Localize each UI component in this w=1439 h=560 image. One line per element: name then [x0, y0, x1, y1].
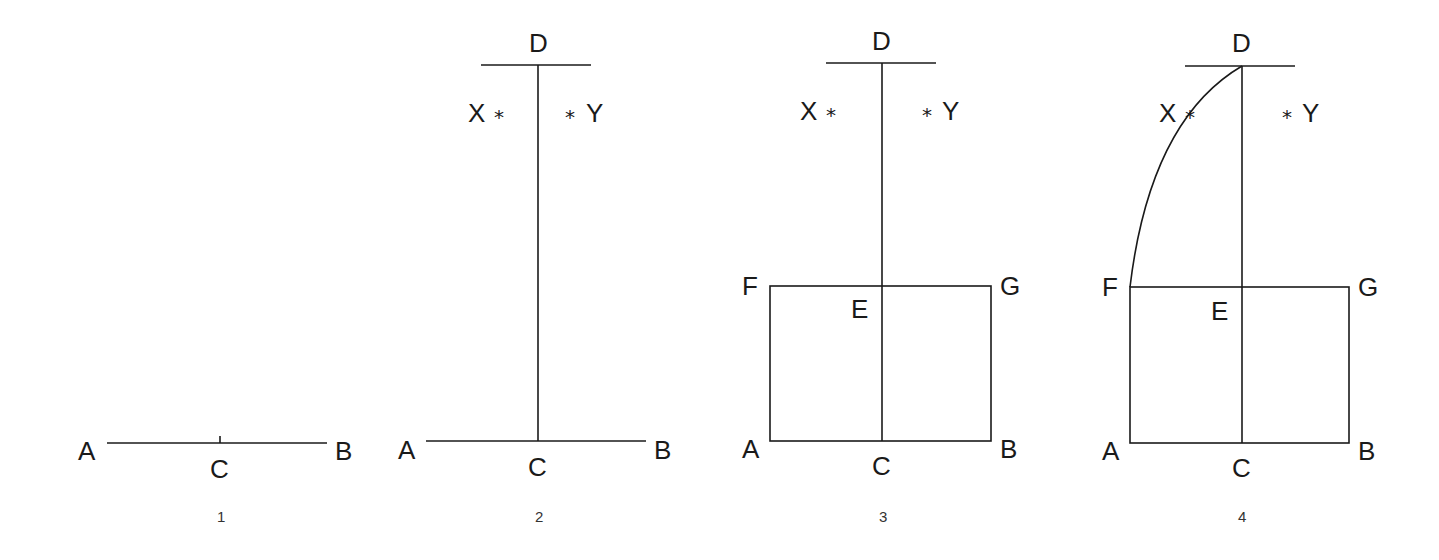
label-f: F	[1102, 272, 1118, 302]
asterisk-x-icon: *	[494, 105, 504, 129]
label-e: E	[851, 294, 868, 324]
step-4: A B C D E F G X * * Y 4	[1102, 28, 1378, 525]
label-b: B	[1000, 434, 1017, 464]
label-c: C	[528, 452, 547, 482]
label-a: A	[742, 434, 760, 464]
label-a: A	[398, 435, 416, 465]
construction-diagram: A B C 1 A B C D X * * Y 2 A B C D E F G …	[0, 0, 1439, 560]
label-x: X	[1159, 98, 1176, 128]
step-number: 2	[535, 508, 543, 525]
step-3: A B C D E F G X * * Y 3	[742, 26, 1020, 525]
step-number: 4	[1238, 508, 1246, 525]
label-b: B	[335, 436, 352, 466]
label-g: G	[1000, 271, 1020, 301]
label-e: E	[1211, 296, 1228, 326]
rectangle-afgb	[770, 286, 991, 441]
label-a: A	[1102, 436, 1120, 466]
label-x: X	[800, 96, 817, 126]
label-b: B	[654, 435, 671, 465]
step-number: 1	[217, 508, 225, 525]
asterisk-y-icon: *	[565, 105, 575, 129]
label-y: Y	[586, 98, 603, 128]
label-d: D	[1232, 28, 1251, 58]
label-x: X	[468, 98, 485, 128]
label-c: C	[210, 454, 229, 484]
label-d: D	[872, 26, 891, 56]
step-number: 3	[879, 508, 887, 525]
label-d: D	[529, 28, 548, 58]
step-1: A B C 1	[78, 436, 352, 525]
label-c: C	[872, 451, 891, 481]
label-f: F	[742, 271, 758, 301]
asterisk-y-icon: *	[1282, 105, 1292, 129]
label-c: C	[1232, 453, 1251, 483]
arc-fd	[1130, 66, 1242, 287]
asterisk-x-icon: *	[1185, 105, 1195, 129]
asterisk-y-icon: *	[922, 103, 932, 127]
asterisk-x-icon: *	[826, 103, 836, 127]
label-a: A	[78, 436, 96, 466]
label-y: Y	[942, 96, 959, 126]
label-b: B	[1358, 436, 1375, 466]
rectangle-afgb	[1130, 287, 1349, 443]
step-2: A B C D X * * Y 2	[398, 28, 671, 525]
label-g: G	[1358, 272, 1378, 302]
label-y: Y	[1302, 98, 1319, 128]
